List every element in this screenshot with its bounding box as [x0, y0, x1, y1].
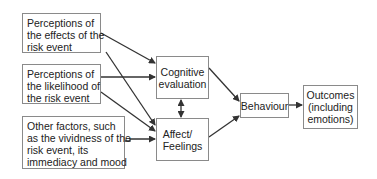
box-other-factors: Other factors, such as the vividness of … — [22, 116, 125, 169]
box-text-line: risk event — [27, 41, 96, 53]
box-text-line: the likelihood of — [27, 80, 96, 92]
box-perceptions-likelihood: Perceptions of the likelihood of the ris… — [22, 64, 101, 104]
arrow-effects-to-cognitive — [101, 33, 155, 63]
box-perceptions-effects: Perceptions of the effects of the risk e… — [22, 13, 101, 53]
box-text-line: as the vividness of the — [27, 132, 120, 144]
box-text-line: risk event, its — [27, 144, 120, 156]
arrow-cognitive-to-behaviour — [209, 68, 239, 101]
arrow-affect-to-behaviour — [209, 116, 239, 137]
box-text-line: immediacy and mood — [27, 156, 120, 168]
box-affect-feelings: Affect/ Feelings — [156, 118, 209, 161]
box-behaviour: Behaviour — [240, 93, 289, 118]
box-text-line: Other factors, such — [27, 120, 120, 132]
box-text-line: Feelings — [163, 140, 203, 152]
box-text-line: evaluation — [159, 78, 207, 90]
box-text-line: Perceptions of — [27, 68, 96, 80]
box-text-line: Cognitive — [159, 66, 207, 78]
box-text-line: Perceptions of — [27, 17, 96, 29]
box-text-line: the risk event — [27, 92, 96, 104]
box-text-line: the effects of the — [27, 29, 96, 41]
box-text-line: emotions) — [307, 113, 355, 125]
box-outcomes: Outcomes (including emotions) — [303, 85, 358, 129]
box-text-line: Affect/ — [163, 128, 203, 140]
box-text-line: (including — [307, 101, 355, 113]
box-text-line: Behaviour — [241, 100, 288, 112]
box-cognitive-evaluation: Cognitive evaluation — [156, 56, 209, 99]
box-text-line: Outcomes — [307, 89, 355, 101]
